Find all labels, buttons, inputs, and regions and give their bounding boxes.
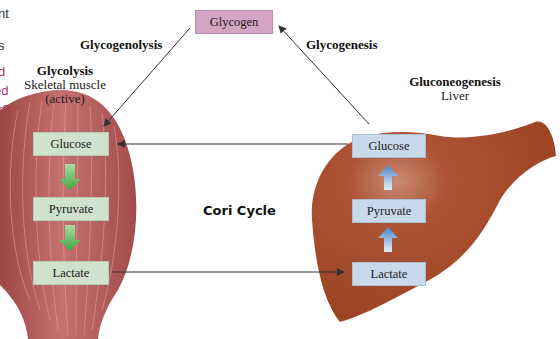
glycogenolysis-label: Glycogenolysis	[80, 37, 162, 53]
liver-pyruvate-box: Pyruvate	[352, 199, 426, 223]
muscle-glucose-box: Glucose	[33, 132, 109, 156]
clipped-line: rted	[0, 81, 10, 100]
muscle-lactate-box: Lactate	[33, 261, 109, 285]
muscle-glucose-label: Glucose	[51, 137, 92, 152]
muscle-caption: Glycolysis Skeletal muscle (active)	[20, 64, 110, 106]
clipped-line: nt	[0, 4, 9, 23]
muscle-pyruvate-label: Pyruvate	[49, 202, 93, 217]
liver-caption: Gluconeogenesis Liver	[400, 75, 510, 103]
spacer	[0, 23, 9, 36]
clipped-line: s	[0, 36, 9, 55]
liver-pyruvate-label: Pyruvate	[367, 204, 411, 219]
clipped-line: r?	[0, 100, 10, 119]
glycolysis-label: Glycolysis	[20, 64, 110, 78]
clipped-line: d	[0, 62, 10, 81]
liver-lactate-box: Lactate	[352, 262, 426, 286]
glycogen-label: Glycogen	[210, 15, 259, 30]
clipped-text-accent: d rted r?	[0, 62, 10, 119]
liver-shape	[312, 122, 556, 322]
glycogen-box: Glycogen	[195, 10, 273, 34]
glycogenesis-label: Glycogenesis	[306, 37, 378, 53]
liver-label: Liver	[400, 89, 510, 103]
gluconeogenesis-label: Gluconeogenesis	[400, 75, 510, 89]
liver-glucose-box: Glucose	[352, 134, 426, 158]
active-label: (active)	[20, 92, 110, 106]
muscle-lactate-label: Lactate	[53, 266, 90, 281]
clipped-text-dark: nt s	[0, 4, 9, 55]
cori-cycle-label: Cori Cycle	[203, 203, 276, 218]
muscle-pyruvate-box: Pyruvate	[33, 197, 109, 221]
skeletal-muscle-label: Skeletal muscle	[20, 78, 110, 92]
liver-glucose-label: Glucose	[369, 139, 410, 154]
liver-lactate-label: Lactate	[371, 267, 408, 282]
